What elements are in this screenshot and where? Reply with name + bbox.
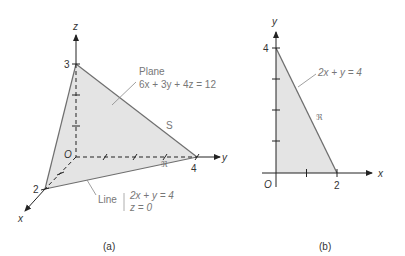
region-label-b: ℜ — [316, 113, 323, 122]
x-axis-label: x — [17, 213, 24, 224]
equation-leader-b — [298, 74, 316, 87]
x-intercept-label: 2 — [33, 184, 39, 195]
line-equation-2: z = 0 — [129, 202, 152, 213]
line-label: Line — [98, 194, 117, 205]
figure-b: y x O 4 2 2x + y = 4 ℜ (b) — [262, 16, 384, 252]
figure-a: z y x O 3 4 2 Plane 6x + 3y + 4z = 12 S … — [17, 21, 228, 252]
line-leader — [87, 180, 96, 195]
caption-b: (b) — [319, 241, 331, 252]
x-intercept-label-b: 2 — [334, 180, 340, 191]
region-label: ℜ — [161, 160, 168, 169]
y-intercept-label-b: 4 — [263, 43, 269, 54]
figure-canvas: z y x O 3 4 2 Plane 6x + 3y + 4z = 12 S … — [0, 0, 405, 256]
z-axis-label: z — [72, 21, 78, 32]
line-equation-1: 2x + y = 4 — [129, 190, 174, 201]
caption-a: (a) — [103, 241, 115, 252]
origin-label: O — [64, 149, 72, 160]
line-equation-b: 2x + y = 4 — [317, 67, 362, 78]
plane-label: Plane — [139, 66, 165, 77]
y-axis-label: y — [221, 152, 228, 163]
x-axis-label-b: x — [377, 168, 384, 179]
origin-label-b: O — [264, 179, 272, 190]
y-intercept-label: 4 — [191, 163, 197, 174]
z-intercept-label: 3 — [64, 59, 70, 70]
y-axis-label-b: y — [271, 16, 278, 27]
surface-label: S — [166, 120, 173, 131]
plane-equation: 6x + 3y + 4z = 12 — [139, 79, 216, 90]
